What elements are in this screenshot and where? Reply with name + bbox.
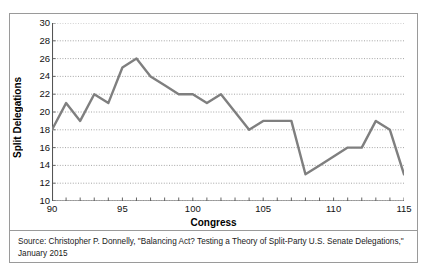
x-tick-label: 95 [117, 204, 128, 214]
x-tick-label: 100 [185, 204, 201, 214]
y-tick-label: 20 [26, 107, 50, 117]
chart-figure: Split Delegations 1012141618202224262830… [9, 13, 418, 263]
plot-area: Split Delegations 1012141618202224262830… [10, 14, 417, 219]
y-axis-tick-labels: 1012141618202224262830 [26, 23, 50, 201]
y-tick-label: 24 [26, 72, 50, 82]
x-tick-label: 105 [255, 204, 271, 214]
y-tick-label: 22 [26, 89, 50, 99]
y-tick-label: 16 [26, 143, 50, 153]
x-tick-label: 110 [326, 204, 341, 214]
y-tick-label: 30 [26, 18, 50, 28]
y-axis-label: Split Delegations [12, 62, 26, 172]
y-tick-label: 14 [26, 161, 50, 171]
x-tick-label: 115 [396, 204, 411, 214]
y-tick-label: 18 [26, 125, 50, 135]
y-tick-label: 28 [26, 36, 50, 46]
data-series-line [52, 59, 404, 175]
source-note: Source: Christopher P. Donnelly, "Balanc… [18, 236, 409, 260]
y-tick-label: 26 [26, 54, 50, 64]
x-axis-tick-labels: 9095100105110115 [52, 204, 404, 218]
x-axis-label: Congress [10, 217, 417, 228]
y-tick-label: 12 [26, 178, 50, 188]
x-tick-label: 90 [47, 204, 58, 214]
source-divider [10, 230, 417, 231]
chart-canvas [52, 23, 404, 201]
gridlines [52, 23, 404, 201]
